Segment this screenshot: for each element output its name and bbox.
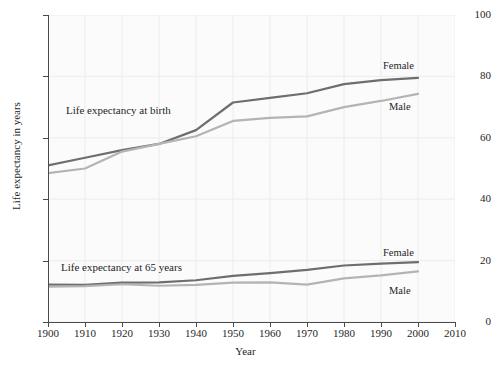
y-tick-label: 20 (453, 255, 491, 266)
y-tick-mark (43, 199, 48, 200)
y-axis-title: Life expectancy in years (10, 56, 22, 256)
x-axis-title: Year (0, 345, 491, 357)
series-label-birth-female: Female (383, 60, 414, 71)
y-tick-label: 100 (453, 9, 491, 20)
y-axis-line (48, 15, 49, 323)
y-tick-label: 40 (453, 193, 491, 204)
x-tick-label: 2010 (433, 327, 477, 339)
y-tick-mark (43, 76, 48, 77)
y-tick-mark (43, 261, 48, 262)
annotation-life-expectancy-at-birth: Life expectancy at birth (66, 104, 171, 116)
x-axis-line (48, 322, 456, 323)
y-tick-mark (43, 15, 48, 16)
series-label-age65-female: Female (383, 247, 414, 258)
series-label-birth-male: Male (389, 101, 411, 112)
y-tick-label: 80 (453, 70, 491, 81)
y-tick-label: 0 (453, 316, 491, 327)
life-expectancy-figure: 020406080100 190019101920193019401950196… (0, 0, 491, 368)
y-tick-mark (43, 138, 48, 139)
series-label-age65-male: Male (389, 285, 411, 296)
y-tick-label: 60 (453, 132, 491, 143)
annotation-life-expectancy-at-65: Life expectancy at 65 years (61, 261, 182, 273)
